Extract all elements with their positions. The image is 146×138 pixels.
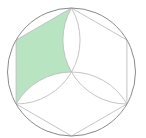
arc-center-lowerright-lower xyxy=(72,72,127,104)
arc-center-top-right xyxy=(72,8,81,72)
arc-center-lowerright-upper xyxy=(72,72,127,104)
shaded-region xyxy=(16,8,71,104)
geometry-diagram xyxy=(0,0,146,138)
